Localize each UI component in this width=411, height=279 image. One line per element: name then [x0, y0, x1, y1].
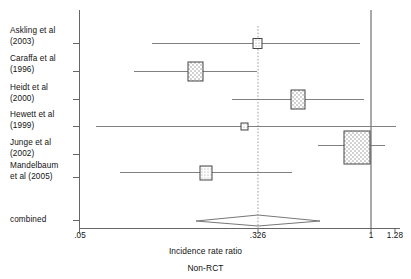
- estimate-marker-caraffa: [188, 62, 203, 81]
- study-row-askling: [152, 39, 360, 49]
- forest-plot-canvas: [0, 0, 411, 279]
- study-row-mandelbaum: [120, 166, 292, 180]
- study-row-hewett: [96, 123, 396, 130]
- estimate-marker-heidt: [291, 90, 305, 109]
- estimate-marker-mandelbaum: [200, 166, 212, 180]
- estimate-marker-askling: [253, 39, 262, 49]
- estimate-marker-hewett: [241, 123, 248, 130]
- forest-plot: Askling et al (2003) Caraffa et al (1996…: [0, 0, 411, 279]
- study-row-junge: [318, 131, 385, 164]
- estimate-marker-junge: [344, 131, 370, 164]
- study-row-caraffa: [134, 62, 257, 81]
- study-row-heidt: [232, 90, 364, 109]
